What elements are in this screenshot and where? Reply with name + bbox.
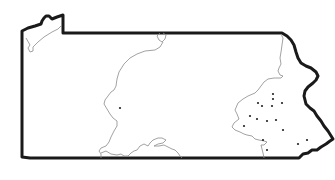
site-dot <box>275 119 277 121</box>
region-line-northwest <box>26 26 61 52</box>
site-dot <box>262 139 264 141</box>
site-dot <box>297 143 299 145</box>
map-canvas <box>0 0 335 180</box>
site-dot <box>119 107 121 109</box>
region-line-south-river <box>101 138 182 158</box>
site-dot <box>256 118 258 120</box>
site-dot <box>306 139 308 141</box>
site-dot <box>271 105 273 107</box>
site-dot <box>266 120 268 122</box>
region-line-east <box>232 34 283 158</box>
site-dot <box>249 115 251 117</box>
site-dot <box>282 129 284 131</box>
site-dot <box>272 98 274 100</box>
site-dot <box>272 93 274 95</box>
site-dot <box>266 149 268 151</box>
site-dot <box>281 102 283 104</box>
state-border <box>22 15 333 158</box>
site-dots <box>119 93 308 151</box>
site-dot <box>261 105 263 107</box>
pennsylvania-map: Outline map of Pennsylvania <box>0 0 335 180</box>
site-dot <box>243 125 245 127</box>
site-dot <box>257 102 259 104</box>
